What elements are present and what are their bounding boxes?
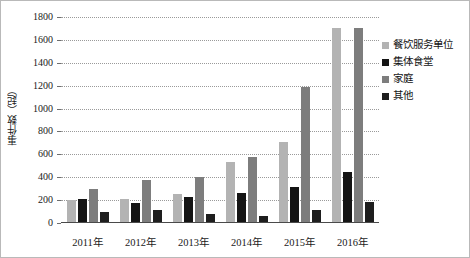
bar[interactable] <box>301 87 310 223</box>
bar-group <box>220 17 273 223</box>
y-axis-tick-mark <box>57 223 61 224</box>
y-axis-tick-label: 1800 <box>33 12 53 22</box>
x-axis-labels: 2011年2012年2013年2014年2015年2016年 <box>61 234 379 249</box>
x-axis-tick-label: 2014年 <box>220 234 273 249</box>
bar-group <box>61 17 114 223</box>
bar-groups <box>61 17 379 223</box>
legend-swatch-icon <box>382 42 389 49</box>
x-axis-tick-label: 2012年 <box>114 234 167 249</box>
bar[interactable] <box>354 28 363 223</box>
x-axis-tick-label: 2013年 <box>167 234 220 249</box>
y-axis-tick-label: 1200 <box>33 81 53 91</box>
y-axis-tick-label: 1400 <box>33 58 53 68</box>
bar[interactable] <box>195 177 204 223</box>
bar-group <box>114 17 167 223</box>
legend-item-label: 家庭 <box>393 74 413 85</box>
plot-area-wrapper: 020040060080010001200140016001800 <box>23 17 381 233</box>
y-axis-tick-label: 600 <box>38 149 53 159</box>
legend-item[interactable]: 其他 <box>382 88 470 105</box>
bar[interactable] <box>312 210 321 223</box>
bar-group <box>273 17 326 223</box>
bar[interactable] <box>237 193 246 223</box>
bar[interactable] <box>226 162 235 223</box>
y-axis-tick-label: 1000 <box>33 104 53 114</box>
legend-swatch-icon <box>382 93 389 100</box>
bar[interactable] <box>332 28 341 223</box>
y-axis-tick-label: 200 <box>38 195 53 205</box>
legend-item-label: 餐饮服务单位 <box>393 40 453 51</box>
bar[interactable] <box>173 194 182 223</box>
legend-item[interactable]: 餐饮服务单位 <box>382 37 470 54</box>
bar[interactable] <box>184 197 193 223</box>
bar[interactable] <box>248 157 257 223</box>
bar[interactable] <box>120 199 129 223</box>
bar-group <box>167 17 220 223</box>
bar[interactable] <box>365 202 374 223</box>
y-axis-tick-label: 1600 <box>33 35 53 45</box>
legend-swatch-icon <box>382 59 389 66</box>
legend-item[interactable]: 集体食堂 <box>382 54 470 71</box>
bar[interactable] <box>343 172 352 223</box>
y-axis-tick-labels: 020040060080010001200140016001800 <box>23 17 57 223</box>
legend-item-label: 其他 <box>393 91 413 102</box>
chart-container: 事件数（起） 020040060080010001200140016001800… <box>0 0 470 258</box>
plot-area <box>61 17 379 223</box>
bar[interactable] <box>67 200 76 223</box>
bar[interactable] <box>131 203 140 223</box>
bar[interactable] <box>142 180 151 223</box>
bar[interactable] <box>290 187 299 223</box>
x-axis-tick-label: 2016年 <box>326 234 379 249</box>
bar[interactable] <box>89 189 98 223</box>
y-axis-title: 事件数（起） <box>3 1 23 229</box>
bar[interactable] <box>279 142 288 223</box>
y-axis-tick-label: 0 <box>48 218 53 228</box>
y-axis-tick-label: 800 <box>38 126 53 136</box>
y-axis-tick-label: 400 <box>38 172 53 182</box>
x-axis-line <box>61 222 379 223</box>
bar-group <box>326 17 379 223</box>
legend-swatch-icon <box>382 76 389 83</box>
x-axis-tick-label: 2015年 <box>273 234 326 249</box>
legend-item-label: 集体食堂 <box>393 57 433 68</box>
chart-legend: 餐饮服务单位集体食堂家庭其他 <box>382 37 470 105</box>
bar[interactable] <box>78 199 87 223</box>
x-axis-tick-label: 2011年 <box>61 234 114 249</box>
legend-item[interactable]: 家庭 <box>382 71 470 88</box>
